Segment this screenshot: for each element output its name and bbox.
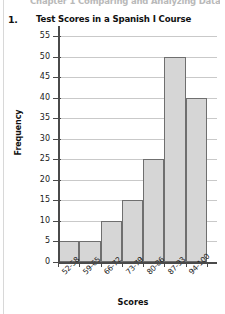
y-tick-mark <box>53 118 61 119</box>
y-tick-mark <box>53 180 61 181</box>
y-tick-label: 35 <box>24 114 50 122</box>
x-axis-label: Scores <box>58 297 208 307</box>
gridline <box>60 57 217 58</box>
y-tick-label: 15 <box>24 196 50 204</box>
gridline <box>60 77 217 78</box>
y-axis-line <box>58 26 60 263</box>
gridline <box>60 36 217 37</box>
histogram-figure: Frequency Scores 0510152025303540455055 … <box>0 0 225 314</box>
y-axis-label: Frequency <box>14 93 23 173</box>
bar <box>164 57 185 262</box>
bar <box>186 98 207 262</box>
y-tick-mark <box>53 159 61 160</box>
y-tick-label: 30 <box>24 135 50 143</box>
y-tick-mark <box>53 221 61 222</box>
y-tick-label: 10 <box>24 217 50 225</box>
bar <box>143 159 164 262</box>
y-tick-mark <box>53 98 61 99</box>
y-tick-label: 40 <box>24 94 50 102</box>
y-tick-label: 20 <box>24 176 50 184</box>
y-tick-label: 50 <box>24 53 50 61</box>
y-tick-label: 25 <box>24 155 50 163</box>
bar <box>101 221 122 262</box>
x-axis-line <box>58 262 217 264</box>
y-tick-mark <box>53 77 61 78</box>
y-tick-label: 5 <box>24 237 50 245</box>
y-tick-label: 45 <box>24 73 50 81</box>
y-tick-mark <box>53 57 61 58</box>
y-tick-label: 0 <box>24 258 50 266</box>
y-tick-mark <box>53 200 61 201</box>
bar <box>122 200 143 262</box>
y-tick-label: 55 <box>24 32 50 40</box>
y-tick-mark <box>53 36 61 37</box>
y-tick-mark <box>53 139 61 140</box>
